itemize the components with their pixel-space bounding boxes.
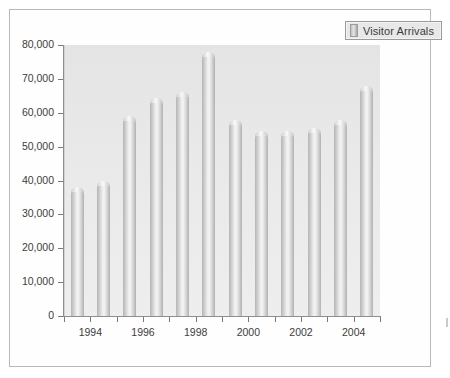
axis-ticks-layer: 80,00070,00060,00050,00040,00030,00020,0… [0, 0, 450, 378]
y-axis-tick-label: 0 [0, 309, 54, 321]
y-axis-tick-label: 80,000 [0, 38, 54, 50]
y-axis-tick [58, 45, 63, 46]
x-axis-tick-label: 1996 [131, 326, 154, 338]
y-axis-tick [58, 248, 63, 249]
x-axis-tick [327, 317, 328, 322]
x-axis-tick [222, 317, 223, 322]
x-axis-tick [90, 317, 91, 322]
x-axis-tick-label: 2000 [237, 326, 260, 338]
y-axis-tick [58, 147, 63, 148]
x-axis-tick [143, 317, 144, 322]
y-axis-tick-label: 70,000 [0, 72, 54, 84]
x-axis-tick [380, 317, 381, 322]
x-axis-tick-label: 1998 [184, 326, 207, 338]
x-axis-tick-label: 1994 [79, 326, 102, 338]
x-axis-tick [354, 317, 355, 322]
y-axis-tick [58, 214, 63, 215]
x-axis-tick [196, 317, 197, 322]
y-axis-tick-label: 30,000 [0, 207, 54, 219]
y-axis-tick-label: 50,000 [0, 140, 54, 152]
y-axis-tick-label: 10,000 [0, 275, 54, 287]
y-axis-tick-label: 20,000 [0, 241, 54, 253]
y-axis-tick [58, 79, 63, 80]
x-axis-tick [64, 317, 65, 322]
x-axis-tick [117, 317, 118, 322]
chart-screenshot: Visitor Arrivals 80,00070,00060,00050,00… [0, 0, 450, 378]
x-axis-tick [248, 317, 249, 322]
frame-edge-mark [446, 318, 448, 327]
y-axis-tick-label: 40,000 [0, 174, 54, 186]
x-axis-tick [169, 317, 170, 322]
x-axis-tick-label: 2004 [342, 326, 365, 338]
y-axis-tick [58, 181, 63, 182]
y-axis-tick [58, 282, 63, 283]
y-axis-tick [58, 113, 63, 114]
x-axis-tick [275, 317, 276, 322]
x-axis-tick [301, 317, 302, 322]
y-axis-tick [58, 316, 63, 317]
x-axis-tick-label: 2002 [289, 326, 312, 338]
y-axis-tick-label: 60,000 [0, 106, 54, 118]
